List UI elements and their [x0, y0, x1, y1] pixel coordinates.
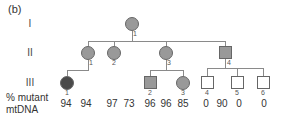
mutant-mtdna-label: % mutant mtDNA [6, 92, 48, 116]
sibship-line [150, 70, 184, 71]
drop-line [207, 68, 208, 76]
individual-iii-4-male-unaffected [201, 76, 214, 89]
individual-ii-3-female-affected [159, 46, 173, 60]
individual-ii-1-female-affected [81, 46, 95, 60]
sibship-line [207, 68, 264, 69]
mutant-label-line2: mtDNA [6, 104, 48, 116]
individual-id: 1 [89, 59, 93, 66]
percentage-value: 94 [76, 98, 96, 109]
generation-label-iii: III [20, 77, 40, 88]
individual-id: 1 [133, 30, 137, 37]
individual-id: 1 [65, 89, 69, 96]
descent-line [88, 60, 89, 70]
panel-label: (b) [8, 3, 21, 15]
descent-line [132, 31, 133, 41]
drop-line [237, 68, 238, 76]
individual-id: 3 [181, 89, 185, 96]
individual-iii-1-female-severely-affected [60, 76, 74, 90]
descent-line [166, 60, 167, 70]
generation-label-ii: II [20, 47, 40, 58]
percentage-value: 94 [56, 98, 76, 109]
individual-id: 4 [205, 89, 209, 96]
individual-id: 3 [167, 59, 171, 66]
individual-iii-6-male-unaffected [257, 76, 270, 89]
percentage-value: 85 [173, 98, 193, 109]
individual-id: 5 [235, 89, 239, 96]
individual-id: 4 [227, 59, 231, 66]
individual-ii-2-female-affected [107, 46, 121, 60]
generation-label-i: I [20, 18, 40, 29]
descent-line [225, 59, 226, 68]
individual-iii-2-male-affected [144, 76, 157, 89]
drop-line [263, 68, 264, 76]
percentage-value: 73 [119, 98, 139, 109]
individual-ii-4-male-affected [219, 46, 232, 59]
individual-id: 2 [148, 89, 152, 96]
individual-i-1-female-affected [125, 17, 139, 31]
sibship-line-ii [88, 41, 226, 42]
sibship-line [67, 70, 89, 71]
percentage-value: 0 [254, 98, 274, 109]
mutant-label-line1: % mutant [6, 92, 48, 104]
individual-id: 2 [112, 59, 116, 66]
individual-iii-3-female-affected [176, 76, 190, 90]
individual-iii-5-male-unaffected [231, 76, 244, 89]
individual-id: 6 [261, 89, 265, 96]
percentage-value: 0 [229, 98, 249, 109]
